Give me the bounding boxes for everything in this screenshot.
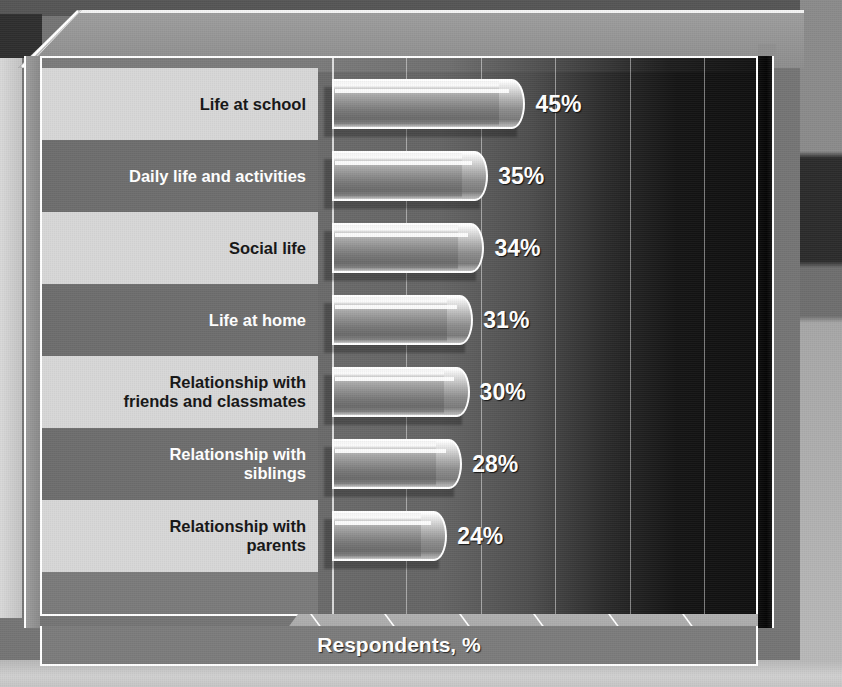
bar-body <box>332 295 460 345</box>
category-label-3: Social life <box>42 212 318 284</box>
bar-highlight <box>335 377 454 381</box>
category-label-2: Daily life and activities <box>42 140 318 212</box>
category-label-column: Life at schoolDaily life and activitiesS… <box>42 58 318 614</box>
bar-body <box>332 439 449 489</box>
bar-5[interactable] <box>332 367 470 417</box>
gridline-100 <box>704 58 705 614</box>
x-axis-title: Respondents, % <box>317 633 480 657</box>
bar-highlight <box>335 521 431 525</box>
category-label-text: Life at home <box>209 311 306 330</box>
bar-2[interactable] <box>332 151 488 201</box>
bar-4[interactable] <box>332 295 473 345</box>
bar-1[interactable] <box>332 79 525 129</box>
bar-end-cap <box>436 439 462 489</box>
bar-end-cap <box>421 511 447 561</box>
category-label-1: Life at school <box>42 68 318 140</box>
category-label-6: Relationship with siblings <box>42 428 318 500</box>
category-label-text: Life at school <box>200 95 306 114</box>
bar-body <box>332 79 512 129</box>
bar-value-label-5: 30% <box>480 379 526 406</box>
bar-end-cap <box>462 151 488 201</box>
bar-body <box>332 511 434 561</box>
gridline-80 <box>630 58 631 614</box>
bar-value-label-3: 34% <box>494 235 540 262</box>
bar-value-label-4: 31% <box>483 307 529 334</box>
category-label-7: Relationship with parents <box>42 500 318 572</box>
category-label-text: Relationship with siblings <box>169 445 306 483</box>
page-background-right <box>800 0 842 687</box>
category-label-text: Social life <box>229 239 306 258</box>
bar-value-label-1: 45% <box>535 91 581 118</box>
bar-end-cap <box>458 223 484 273</box>
bar-6[interactable] <box>332 439 462 489</box>
bar-highlight <box>335 161 472 165</box>
bar-body <box>332 151 475 201</box>
chart-right-wall <box>758 56 774 628</box>
bar-value-label-2: 35% <box>498 163 544 190</box>
axis-title-strip: Respondents, % <box>40 626 758 666</box>
bar-body <box>332 367 457 417</box>
bar-end-cap <box>447 295 473 345</box>
category-label-text: Daily life and activities <box>129 167 306 186</box>
category-label-text: Relationship with friends and classmates <box>124 373 307 411</box>
bar-end-cap <box>444 367 470 417</box>
bar-end-cap <box>499 79 525 129</box>
gridline-60 <box>555 58 556 614</box>
bar-7[interactable] <box>332 511 447 561</box>
bar-chart-3d: Life at schoolDaily life and activitiesS… <box>18 10 804 660</box>
category-label-5: Relationship with friends and classmates <box>42 356 318 428</box>
bar-highlight <box>335 233 468 237</box>
bar-body <box>332 223 471 273</box>
bar-highlight <box>335 449 446 453</box>
bar-highlight <box>335 89 509 93</box>
chart-panel: Life at schoolDaily life and activitiesS… <box>40 56 758 616</box>
bar-value-label-6: 28% <box>472 451 518 478</box>
bar-highlight <box>335 305 457 309</box>
chart-top-edge-highlight <box>78 10 804 13</box>
category-label-text: Relationship with parents <box>169 517 306 555</box>
bar-3[interactable] <box>332 223 484 273</box>
chart-page: Life at schoolDaily life and activitiesS… <box>0 0 842 687</box>
category-label-4: Life at home <box>42 284 318 356</box>
chart-left-wall <box>24 56 40 628</box>
bar-value-label-7: 24% <box>457 523 503 550</box>
plot-top-band <box>318 58 756 72</box>
